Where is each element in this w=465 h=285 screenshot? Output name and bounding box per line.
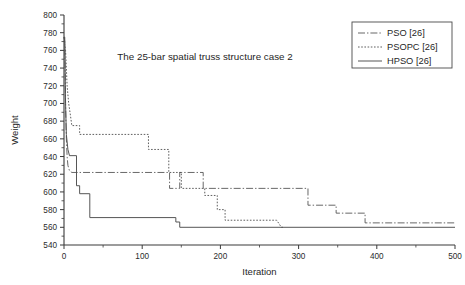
x-tick-label: 100 xyxy=(135,252,149,261)
y-tick-label: 740 xyxy=(43,64,57,73)
series-line-psopc-26 xyxy=(64,37,283,227)
y-tick-label: 720 xyxy=(43,82,57,91)
y-tick-label: 640 xyxy=(43,153,57,162)
legend-label-hpso-26: HPSO [26] xyxy=(387,56,431,66)
y-tick-label: 540 xyxy=(43,241,57,250)
legend-label-psopc-26: PSOPC [26] xyxy=(387,42,438,52)
y-tick-label: 780 xyxy=(43,29,57,38)
y-axis-title: Weight xyxy=(9,115,20,145)
legend-label-pso-26: PSO [26] xyxy=(387,28,425,38)
x-tick-label: 300 xyxy=(292,252,306,261)
y-tick-label: 580 xyxy=(43,206,57,215)
chart-figure: 5405605806006206406606807007207407607808… xyxy=(0,0,465,285)
x-axis-title: Iteration xyxy=(242,266,276,277)
x-tick-label: 500 xyxy=(448,252,462,261)
x-tick-label: 0 xyxy=(62,252,67,261)
y-tick-label: 620 xyxy=(43,170,57,179)
y-tick-label: 600 xyxy=(43,188,57,197)
chart-canvas: 5405605806006206406606807007207407607808… xyxy=(0,0,465,285)
x-tick-label: 200 xyxy=(214,252,228,261)
y-tick-label: 700 xyxy=(43,99,57,108)
y-tick-label: 560 xyxy=(43,223,57,232)
y-tick-label: 800 xyxy=(43,11,57,20)
chart-title: The 25-bar spatial truss structure case … xyxy=(117,51,292,62)
y-tick-label: 760 xyxy=(43,46,57,55)
y-tick-label: 680 xyxy=(43,117,57,126)
x-tick-label: 400 xyxy=(370,252,384,261)
y-tick-label: 660 xyxy=(43,135,57,144)
